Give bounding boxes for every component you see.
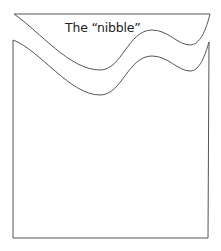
nibble-label: The “nibble” — [65, 20, 141, 35]
nibble-diagram — [0, 0, 221, 251]
main-body-outline — [13, 40, 209, 238]
